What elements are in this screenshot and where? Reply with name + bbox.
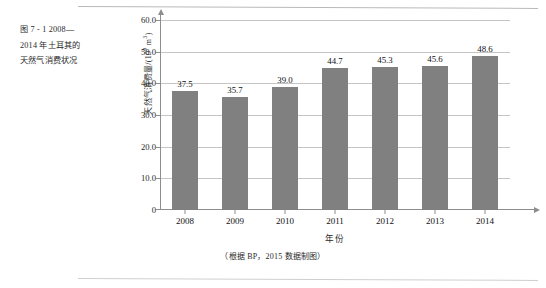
bar[interactable]: 45.6 — [422, 66, 448, 210]
y-axis-arrow-icon — [158, 9, 164, 15]
bar[interactable]: 48.6 — [472, 56, 498, 210]
figure-caption-line-1: 图 7 - 1 2008— — [20, 22, 102, 38]
bar-value-label: 39.0 — [277, 75, 292, 85]
figure-page: 图 7 - 1 2008— 2014 年土耳其的 天然气消费状况 天然气消费量/… — [0, 0, 546, 288]
page-rule-bottom — [78, 278, 538, 281]
x-tick-label: 2011 — [310, 216, 360, 226]
x-tickmark — [185, 210, 186, 214]
figure-caption-line-3: 天然气消费状况 — [20, 53, 102, 69]
x-axis-title: 年份 — [160, 232, 510, 244]
x-tickmark — [235, 210, 236, 214]
bar-slot: 44.7 — [310, 20, 360, 210]
x-tick-label: 2008 — [160, 216, 210, 226]
bar[interactable]: 45.3 — [372, 67, 398, 210]
y-tick-label: 10.0 — [141, 173, 156, 183]
bar-series: 37.5 35.7 39.0 — [160, 20, 510, 210]
x-axis-tick-labels: 2008 2009 2010 2011 2012 2013 2014 — [160, 216, 510, 226]
x-tick-label: 2012 — [360, 216, 410, 226]
bar-value-label: 48.6 — [477, 44, 492, 54]
x-tick-label: 2013 — [410, 216, 460, 226]
x-tickmark — [285, 210, 286, 214]
bar-slot: 39.0 — [260, 20, 310, 210]
bar-slot: 45.6 — [410, 20, 460, 210]
x-tick-label: 2014 — [460, 216, 510, 226]
y-tick-label: 0 — [152, 205, 156, 215]
bar-value-label: 37.5 — [177, 79, 192, 89]
x-axis-arrow-icon — [534, 207, 540, 213]
bar[interactable]: 39.0 — [272, 87, 298, 211]
x-tickmark — [335, 210, 336, 214]
figure-caption-line-2: 2014 年土耳其的 — [20, 38, 102, 54]
source-note: （根据 BP，2015 数据制图） — [0, 250, 546, 261]
bar-value-label: 44.7 — [327, 56, 342, 66]
bar[interactable]: 37.5 — [172, 91, 198, 210]
x-tickmark — [385, 210, 386, 214]
x-tickmark — [485, 210, 486, 214]
bar-chart: 天然气消费量/(109 m3) 0 10.0 20.0 30.0 40.0 50… — [104, 20, 534, 250]
y-tick-label: 60.0 — [141, 15, 156, 25]
y-tick-label: 50.0 — [141, 47, 156, 57]
bar-value-label: 35.7 — [227, 85, 242, 95]
bar[interactable]: 44.7 — [322, 68, 348, 210]
y-tick-label: 20.0 — [141, 142, 156, 152]
bar-slot: 37.5 — [160, 20, 210, 210]
x-tickmark — [435, 210, 436, 214]
y-tick-label: 30.0 — [141, 110, 156, 120]
bar-slot: 35.7 — [210, 20, 260, 210]
bar-value-label: 45.6 — [427, 54, 442, 64]
plot-area: 37.5 35.7 39.0 — [160, 20, 510, 210]
y-axis-tick-labels: 0 10.0 20.0 30.0 40.0 50.0 60.0 — [112, 20, 156, 210]
bar-slot: 45.3 — [360, 20, 410, 210]
x-tick-label: 2010 — [260, 216, 310, 226]
page-rule-top — [78, 6, 538, 9]
bar[interactable]: 35.7 — [222, 97, 248, 210]
bar-value-label: 45.3 — [377, 55, 392, 65]
figure-caption: 图 7 - 1 2008— 2014 年土耳其的 天然气消费状况 — [20, 22, 102, 69]
y-tick-label: 40.0 — [141, 78, 156, 88]
bar-slot: 48.6 — [460, 20, 510, 210]
x-tick-label: 2009 — [210, 216, 260, 226]
